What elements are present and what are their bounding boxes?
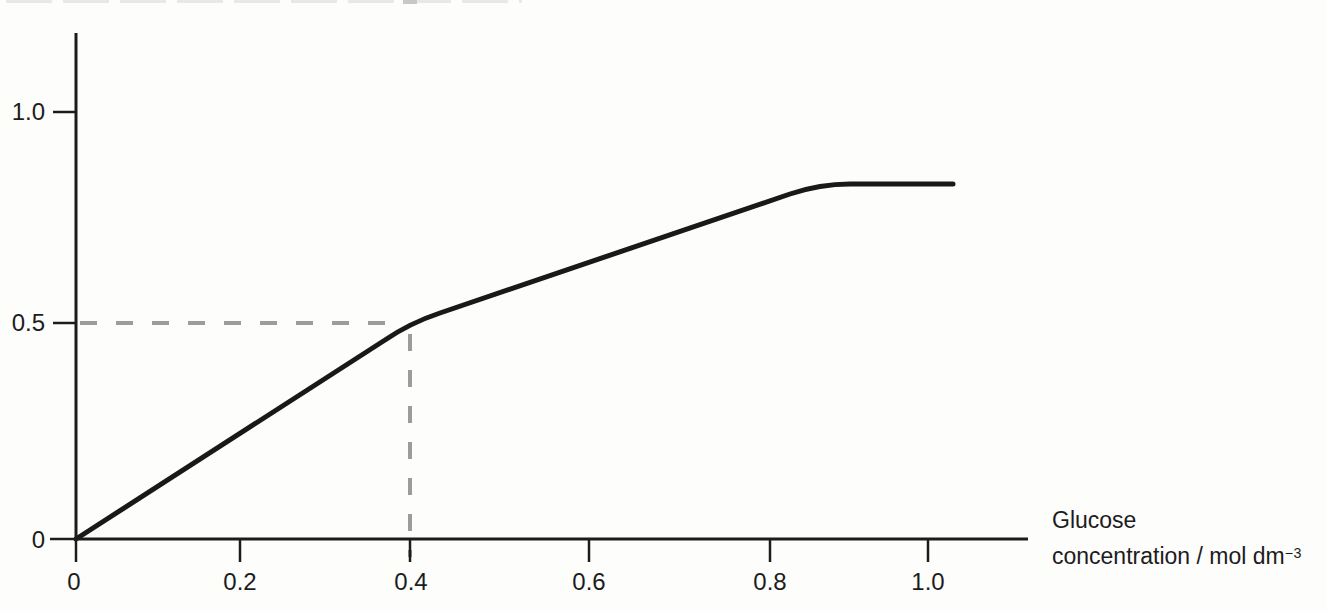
chart-figure: 1.0 0.5 0 0 0.2 0.4 0.6 0.8 1.0 Glucose … [0, 0, 1327, 612]
x-tick-label-0.6: 0.6 [559, 568, 619, 596]
x-axis-title: Glucose concentration / mol dm−3 [1052, 504, 1302, 573]
x-axis-title-line1: Glucose [1052, 504, 1302, 537]
rate-curve [76, 184, 953, 539]
x-tick-label-0: 0 [44, 568, 104, 596]
x-tick-label-0.2: 0.2 [210, 568, 270, 596]
y-tick-label-1.0: 1.0 [5, 98, 45, 126]
x-tick-label-0.8: 0.8 [740, 568, 800, 596]
y-tick-label-0.5: 0.5 [5, 309, 45, 337]
x-tick-label-0.4: 0.4 [381, 568, 441, 596]
y-tick-label-0: 0 [5, 526, 45, 554]
x-axis-title-line2: concentration / mol dm−3 [1052, 537, 1302, 573]
x-axis-title-exponent: −3 [1285, 545, 1302, 561]
x-tick-label-1.0: 1.0 [898, 568, 958, 596]
x-axis-title-line2-base: concentration / mol dm [1052, 543, 1285, 569]
